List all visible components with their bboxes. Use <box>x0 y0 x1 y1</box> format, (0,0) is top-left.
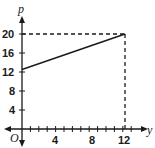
y-tick-label-20: 20 <box>2 28 14 40</box>
y-tick-label-4: 4 <box>9 104 16 116</box>
y-tick-label-16: 16 <box>2 47 14 59</box>
origin-label: O <box>10 131 19 145</box>
data-line <box>22 34 125 70</box>
x-axis-label: y <box>146 123 153 137</box>
y-axis-up-arrow-icon <box>19 16 25 23</box>
x-tick-label-8: 8 <box>89 134 95 146</box>
y-axis-down-arrow-icon <box>19 140 25 147</box>
guide-lines <box>22 34 125 129</box>
y-axis-label: p <box>17 2 24 16</box>
y-tick-label-8: 8 <box>9 85 15 97</box>
x-tick-label-12: 12 <box>118 134 130 146</box>
axes <box>4 16 148 147</box>
chart: p y O 4 8 12 20 16 12 8 4 <box>0 0 155 148</box>
y-tick-label-12: 12 <box>2 66 14 78</box>
x-tick-label-4: 4 <box>52 134 59 146</box>
